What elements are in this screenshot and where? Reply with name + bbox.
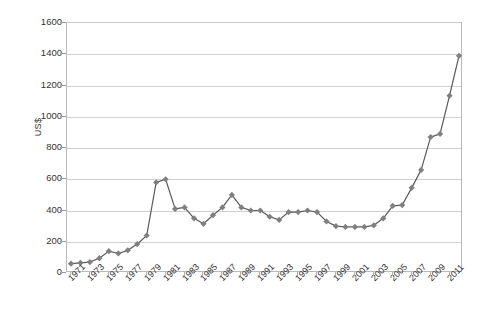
x-tick-mark bbox=[449, 272, 450, 276]
y-tick-label: 400 bbox=[26, 205, 62, 215]
data-point-marker bbox=[257, 207, 263, 213]
x-tick-mark bbox=[127, 272, 128, 276]
y-tick-mark bbox=[60, 241, 66, 242]
data-point-marker bbox=[125, 247, 131, 253]
x-tick-mark bbox=[221, 272, 222, 276]
y-tick-label: 800 bbox=[26, 142, 62, 152]
line-series bbox=[67, 23, 463, 273]
x-tick-mark bbox=[373, 272, 374, 276]
x-tick-mark bbox=[184, 272, 185, 276]
y-tick-label: 1200 bbox=[26, 80, 62, 90]
x-tick-mark bbox=[165, 272, 166, 276]
data-point-marker bbox=[87, 259, 93, 265]
plot-area bbox=[66, 22, 462, 272]
y-tick-mark bbox=[60, 53, 66, 54]
y-tick-mark bbox=[60, 22, 66, 23]
x-tick-mark bbox=[411, 272, 412, 276]
chart-container: US$ 02004006008001000120014001600 197119… bbox=[0, 0, 480, 323]
y-tick-label: 1600 bbox=[26, 17, 62, 27]
data-point-marker bbox=[352, 224, 358, 230]
data-point-marker bbox=[342, 224, 348, 230]
data-point-marker bbox=[446, 93, 452, 99]
y-tick-label: 1400 bbox=[26, 48, 62, 58]
x-tick-mark bbox=[278, 272, 279, 276]
data-point-marker bbox=[172, 206, 178, 212]
y-tick-mark bbox=[60, 116, 66, 117]
data-point-marker bbox=[153, 179, 159, 185]
x-tick-mark bbox=[259, 272, 260, 276]
x-tick-mark bbox=[146, 272, 147, 276]
data-point-marker bbox=[361, 224, 367, 230]
data-point-marker bbox=[248, 207, 254, 213]
x-tick-mark bbox=[335, 272, 336, 276]
x-tick-mark bbox=[70, 272, 71, 276]
y-tick-mark bbox=[60, 147, 66, 148]
data-point-marker bbox=[409, 185, 415, 191]
x-tick-mark bbox=[89, 272, 90, 276]
data-point-marker bbox=[163, 176, 169, 182]
data-point-marker bbox=[115, 250, 121, 256]
data-point-marker bbox=[428, 134, 434, 140]
series-markers bbox=[68, 53, 462, 267]
x-tick-mark bbox=[202, 272, 203, 276]
data-point-marker bbox=[437, 131, 443, 137]
y-tick-mark bbox=[60, 272, 66, 273]
y-tick-label: 600 bbox=[26, 173, 62, 183]
x-axis-tick-labels: 1971197319751977197919811983198519871989… bbox=[0, 272, 480, 323]
y-tick-mark bbox=[60, 85, 66, 86]
data-point-marker bbox=[456, 53, 462, 59]
y-tick-mark bbox=[60, 210, 66, 211]
data-point-marker bbox=[399, 202, 405, 208]
y-tick-mark bbox=[60, 178, 66, 179]
data-point-marker bbox=[304, 207, 310, 213]
x-tick-mark bbox=[108, 272, 109, 276]
x-tick-mark bbox=[430, 272, 431, 276]
data-point-marker bbox=[68, 261, 74, 267]
x-tick-mark bbox=[392, 272, 393, 276]
data-point-marker bbox=[333, 223, 339, 229]
data-point-marker bbox=[267, 214, 273, 220]
series-polyline bbox=[71, 56, 459, 264]
data-point-marker bbox=[418, 167, 424, 173]
x-tick-mark bbox=[354, 272, 355, 276]
x-tick-mark bbox=[316, 272, 317, 276]
y-tick-label: 200 bbox=[26, 236, 62, 246]
x-tick-mark bbox=[297, 272, 298, 276]
data-point-marker bbox=[295, 209, 301, 215]
y-tick-label: 1000 bbox=[26, 111, 62, 121]
x-tick-mark bbox=[240, 272, 241, 276]
